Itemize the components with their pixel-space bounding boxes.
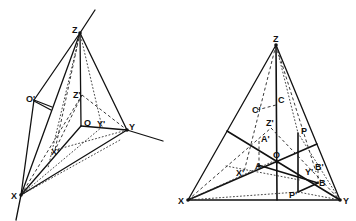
edge-z-y [80,33,127,130]
dot-xprime-y [55,130,127,150]
label-y-prime-r: Y' [305,167,313,177]
label-a-prime: A' [261,134,270,144]
label-y-r: Y [343,196,349,206]
right-figure: Z X Y O C C' Z' A' A X' P P' Y' B' B [178,34,349,206]
point-x-r [186,198,190,202]
edge-z-x-r [188,45,276,200]
line-pprime-b [298,183,318,192]
line-oprime-x [21,100,34,195]
diagram-canvas: Z X Y O O' Z' X' Y' [0,0,356,221]
label-z: Z [72,25,78,35]
altitude-z [276,45,277,200]
label-c: C [278,95,285,105]
axis-line-z-ext [80,10,95,33]
label-z-prime: Z' [73,90,81,100]
label-z-prime-r: Z' [266,118,274,128]
dot-x-lower [21,140,120,195]
point-x [19,193,23,197]
label-c-prime: C' [252,105,261,115]
point-o-r [275,160,278,163]
label-a: A [255,161,262,171]
label-x-r: X [178,196,184,206]
edge-x-y [21,130,127,195]
point-z [78,31,82,35]
label-x-prime: X' [51,147,59,157]
label-b-prime: B' [315,162,324,172]
dot-z-yprime [80,33,102,127]
label-x-prime-r: X' [236,168,244,178]
edge-o-x [21,126,81,195]
label-o-prime: O' [26,94,35,104]
left-figure: Z X Y O O' Z' X' Y' [11,10,163,220]
point-y-r [338,198,342,202]
label-b: B [319,178,326,188]
label-p: P [301,126,307,136]
edge-z-x [21,33,80,195]
label-y: Y [129,122,135,132]
label-x: X [11,191,17,201]
label-o: O [84,118,91,128]
edge-z-o [80,33,81,126]
label-y-prime: Y' [97,119,105,129]
label-o-r: O [273,150,280,160]
label-z-r: Z [273,34,279,44]
label-p-prime: P' [289,190,297,200]
